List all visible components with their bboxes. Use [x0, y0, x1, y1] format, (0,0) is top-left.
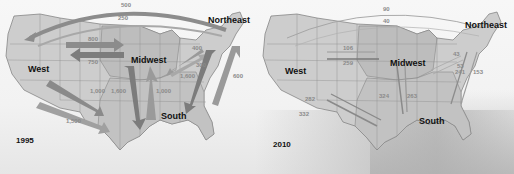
flow-label: 90 — [383, 6, 390, 12]
region-label-midwest: Midwest — [131, 55, 167, 65]
flow-label: 300 — [196, 62, 206, 68]
flow-label: 750 — [88, 59, 98, 65]
us-map-1995 — [0, 0, 257, 174]
region-label-west: West — [285, 66, 306, 76]
region-label-south: South — [419, 116, 445, 126]
flow-label: 40 — [383, 18, 390, 24]
region-label-northeast: Northeast — [208, 15, 250, 25]
flow-label: 106 — [343, 45, 353, 51]
region-label-northeast: Northeast — [465, 20, 507, 30]
flow-label: 241 — [455, 69, 465, 75]
region-label-midwest: Midwest — [390, 58, 426, 68]
year-label-2010: 2010 — [273, 140, 291, 149]
flow-label: 332 — [299, 111, 309, 117]
flow-label: 282 — [305, 96, 315, 102]
flow-label: 800 — [88, 36, 98, 42]
flow-label: 1,600 — [180, 73, 195, 79]
flow-label: 259 — [343, 60, 353, 66]
year-label-1995: 1995 — [16, 136, 34, 145]
flow-label: 600 — [233, 73, 243, 79]
flow-label: 1,500 — [66, 118, 81, 124]
map-panel-1995: 500 250 800 750 400 300 1,600 600 1,000 … — [0, 0, 257, 174]
flow-label: 1,000 — [90, 88, 105, 94]
flow-label: 43 — [453, 51, 460, 57]
flow-label: 324 — [379, 93, 389, 99]
flow-label: 263 — [407, 93, 417, 99]
region-label-west: West — [28, 64, 49, 74]
region-label-south: South — [161, 111, 187, 121]
map-panel-2010: 90 40 106 259 43 53 241 153 282 332 324 … — [257, 0, 514, 174]
flow-label: 1,600 — [111, 88, 126, 94]
flow-label: 400 — [192, 45, 202, 51]
flow-label: 250 — [118, 15, 128, 21]
flow-label: 1,000 — [156, 88, 171, 94]
flow-label: 153 — [473, 69, 483, 75]
flow-label: 500 — [121, 2, 131, 8]
